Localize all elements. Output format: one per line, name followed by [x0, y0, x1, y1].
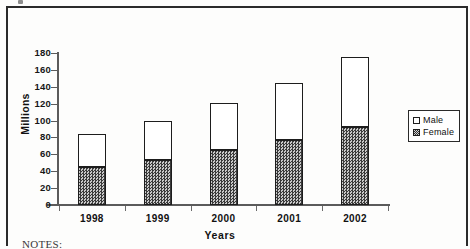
y-tick-80 [51, 137, 57, 138]
bar-2001 [275, 83, 303, 205]
bar-segment-male-2000 [210, 103, 238, 150]
scanned-page-background: 020406080100120140160180 199819992000200… [0, 0, 470, 249]
y-tick-20 [51, 188, 57, 189]
stacked-bar-chart: 020406080100120140160180 199819992000200… [0, 0, 470, 249]
bar-segment-male-2001 [275, 83, 303, 140]
x-tick-label-2000: 2000 [194, 213, 254, 224]
x-tick-1999 [125, 206, 126, 211]
y-tick-60 [51, 154, 57, 155]
bar-segment-female-1998 [78, 167, 106, 205]
x-tick-1998 [59, 206, 60, 211]
legend-item-male: Male [413, 114, 456, 126]
y-axis-title: Millions [19, 79, 31, 149]
y-tick-120 [51, 104, 57, 105]
y-axis-line [57, 52, 59, 206]
y-tick-label-text: 0 [25, 199, 51, 210]
x-tick-2002 [322, 206, 323, 211]
x-tick-label-2001: 2001 [259, 213, 319, 224]
legend-label-female: Female [423, 127, 454, 137]
bar-1998 [78, 134, 106, 205]
legend-label-male: Male [423, 115, 443, 125]
bar-segment-male-2002 [341, 57, 369, 127]
bar-2000 [210, 103, 238, 205]
y-tick-label-text: 60 [25, 148, 51, 159]
y-tick-label-text: 160 [25, 64, 51, 75]
y-tick-40 [51, 171, 57, 172]
y-tick-label-160: 160 [20, 64, 51, 76]
y-tick-140 [51, 87, 57, 88]
bar-segment-female-2002 [341, 127, 369, 205]
bar-segment-female-2001 [275, 140, 303, 205]
x-tick-2000 [191, 206, 192, 211]
chart-legend: Male Female [408, 110, 460, 142]
y-tick-label-20: 20 [20, 182, 51, 194]
y-tick-label-40: 40 [20, 165, 51, 177]
x-tick-label-1999: 1999 [128, 213, 188, 224]
bar-2002 [341, 57, 369, 205]
y-tick-label-0: 0 [20, 199, 51, 211]
x-tick-2001 [256, 206, 257, 211]
x-tick-end [388, 206, 389, 211]
y-tick-label-text: 40 [25, 165, 51, 176]
bar-segment-male-1998 [78, 134, 106, 167]
bar-1999 [144, 121, 172, 205]
bar-segment-female-1999 [144, 160, 172, 205]
y-tick-label-60: 60 [20, 148, 51, 160]
bar-segment-female-2000 [210, 150, 238, 205]
y-tick-label-180: 180 [20, 47, 51, 59]
x-axis-title: Years [160, 229, 280, 241]
y-tick-label-text: 180 [25, 47, 51, 58]
bar-segment-male-1999 [144, 121, 172, 161]
y-tick-100 [51, 121, 57, 122]
y-tick-0 [51, 205, 57, 206]
x-tick-label-2002: 2002 [325, 213, 385, 224]
x-tick-label-1998: 1998 [62, 213, 122, 224]
legend-swatch-female-icon [413, 129, 420, 136]
y-tick-180 [51, 53, 57, 54]
legend-item-female: Female [413, 126, 456, 138]
notes-heading: NOTES: [22, 238, 62, 249]
y-tick-160 [51, 70, 57, 71]
legend-swatch-male-icon [413, 117, 420, 124]
y-tick-label-text: 20 [25, 182, 51, 193]
